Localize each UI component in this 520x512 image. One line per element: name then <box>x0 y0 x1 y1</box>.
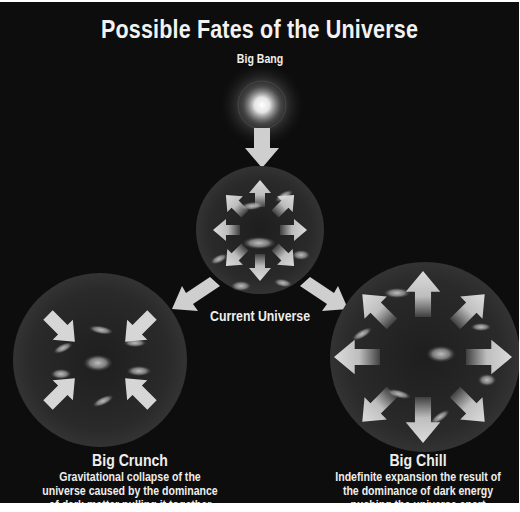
current-universe-label: Current Universe <box>190 308 331 324</box>
big-crunch-sphere <box>13 273 187 447</box>
big-chill-desc-line: pushing the universe apart <box>330 498 506 503</box>
current-universe-sphere <box>196 166 324 294</box>
big-bang-label: Big Bang <box>216 52 304 66</box>
big-chill-caption: Big Chill Indefinite expansion the resul… <box>330 451 506 503</box>
big-chill-desc-line: Indefinite expansion the result of <box>330 470 506 484</box>
big-chill-sphere <box>330 262 519 452</box>
diagram-title: Possible Fates of the Universe <box>36 15 482 44</box>
big-crunch-desc-line: Gravitational collapse of the <box>24 470 235 484</box>
big-crunch-caption: Big Crunch Gravitational collapse of the… <box>24 451 235 503</box>
diagram-canvas: Possible Fates of the Universe Big Bang … <box>0 2 519 503</box>
big-crunch-desc-line: universe caused by the dominance <box>24 484 235 498</box>
diagram-graphics <box>0 2 519 503</box>
big-chill-desc-line: the dominance of dark energy <box>330 484 506 498</box>
big-chill-title: Big Chill <box>330 451 506 470</box>
big-crunch-title: Big Crunch <box>24 451 235 470</box>
big-crunch-desc-line: of dark matter pulling it together <box>24 498 235 503</box>
